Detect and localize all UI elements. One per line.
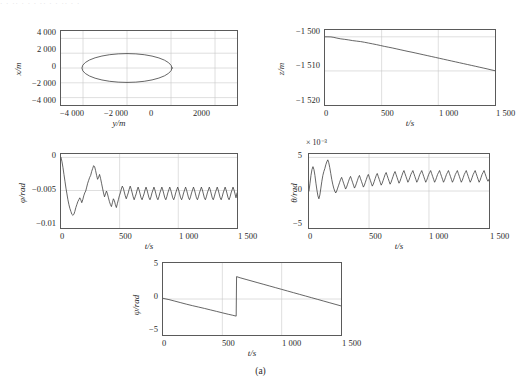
z-depth-line: [325, 37, 495, 71]
xtick-psi-3: 1 500: [342, 338, 343, 348]
axis-label-x-z: t/s: [390, 118, 430, 128]
plot-svg-z: [325, 30, 495, 105]
theta-pitch-line: [309, 160, 489, 199]
xtick-z-0: 0: [324, 108, 325, 118]
xtick-phi-0: 0: [60, 231, 61, 241]
ytick-xy-4: −4 000: [8, 95, 56, 105]
xtick-theta-3: 1 500: [490, 231, 491, 241]
axis-label-x-phi: t/s: [129, 241, 169, 251]
xtick-theta-2: 1 000: [429, 231, 430, 241]
ytick-theta-0: 5: [274, 150, 302, 160]
subplot-xy-trajectory: x/m 4 000 2 000 0 −2 000 −4 000 −4 000 −…: [0, 12, 260, 127]
xtick-z-1: 500: [381, 108, 382, 118]
xtick-phi-3: 1 500: [238, 231, 239, 241]
axis-label-x-xy: y/m: [99, 118, 139, 128]
subplot-psi-yaw: ψ/rad 5 0 −5 0 500 1 000 1 500 t/s: [110, 258, 410, 368]
phi-roll-line: [61, 157, 237, 215]
ytick-psi-2: −5: [130, 324, 158, 334]
plot-area-z: [324, 29, 496, 106]
plot-svg-xy: [61, 31, 237, 105]
plot-area-phi: [60, 153, 238, 229]
xtick-xy-2: 0: [149, 108, 150, 118]
xtick-theta-0: 0: [308, 231, 309, 241]
figure-root: · · ·· · · · ·· · · ·· · · x/m 4 000 2 0…: [0, 0, 521, 389]
subplot-z-depth: z/m −1 500 −1 510 −1 520 0 500 1 000 1 5…: [262, 12, 521, 127]
figure-caption: (a): [0, 366, 521, 376]
axis-label-x-psi: t/s: [232, 348, 272, 358]
ytick-z-1: −1 510: [268, 60, 320, 70]
xtick-xy-1: −2 000: [104, 108, 105, 118]
subplot-phi-roll: φ/rad 0 −0.005 −0.01 0 500 1 000 1 500 t…: [0, 140, 260, 255]
xtick-z-2: 1 000: [439, 108, 440, 118]
plot-area-theta: [308, 153, 490, 229]
ytick-phi-1: −0.005: [8, 184, 56, 194]
xtick-z-3: 1 500: [496, 108, 497, 118]
plot-area-xy: [60, 30, 238, 106]
subplot-theta-pitch: θ/rad × 10⁻³ 5 0 −5 0 500 1 000 1 500 t/…: [262, 140, 521, 255]
ytick-z-0: −1 500: [268, 26, 320, 36]
plot-svg-psi: [163, 263, 341, 335]
plot-svg-phi: [61, 154, 237, 228]
ytick-psi-1: 0: [130, 291, 158, 301]
ytick-z-2: −1 520: [268, 95, 320, 105]
ytick-theta-2: −5: [274, 218, 302, 228]
ytick-theta-1: 0: [274, 184, 302, 194]
psi-yaw-line: [163, 277, 341, 317]
xtick-psi-2: 1 000: [282, 338, 283, 348]
xtick-phi-1: 500: [119, 231, 120, 241]
xtick-xy-0: −4 000: [60, 108, 61, 118]
axis-label-x-theta: t/s: [379, 241, 419, 251]
ytick-phi-2: −0.01: [8, 218, 56, 228]
ytick-xy-1: 2 000: [8, 44, 56, 54]
plot-area-psi: [162, 262, 342, 336]
xtick-phi-2: 1 000: [179, 231, 180, 241]
ytick-psi-0: 5: [130, 258, 158, 268]
ytick-phi-0: 0: [8, 150, 56, 160]
ytick-xy-0: 4 000: [8, 27, 56, 37]
plot-svg-theta: [309, 154, 489, 228]
xtick-theta-1: 500: [369, 231, 370, 241]
axis-exponent-theta: × 10⁻³: [306, 138, 327, 147]
xtick-psi-0: 0: [162, 338, 163, 348]
ytick-xy-3: −2 000: [8, 78, 56, 88]
scan-artifact-text: · · ·· · · · ·· · · ·· · ·: [0, 0, 300, 8]
xtick-xy-3: 2000: [193, 108, 194, 118]
xtick-psi-1: 500: [222, 338, 223, 348]
ytick-xy-2: 0: [8, 61, 56, 71]
